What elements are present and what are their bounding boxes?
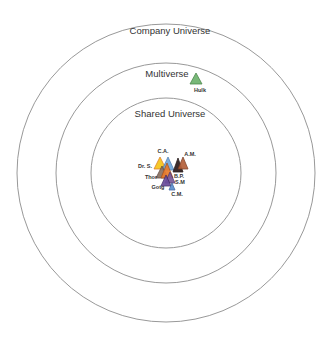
ring-label-multiverse: Multiverse (145, 68, 188, 79)
character-label-c-a: C.A. (158, 148, 169, 154)
character-label-dr-s: Dr. S. (138, 163, 153, 169)
universe-diagram: Company UniverseMultiverseShared Univers… (0, 0, 330, 339)
triangle-marker-icon-hulk (190, 73, 202, 84)
character-label-hulk: Hulk (194, 87, 207, 93)
character-label-gotg: Gotg (152, 184, 165, 190)
ring-label-shared-universe: Shared Universe (135, 108, 206, 119)
character-label-thor: Thor (145, 174, 158, 180)
characters-group: HulkDr. S.C.A.A.M.ThorB.P.S.MGotgC.M. (138, 73, 207, 197)
character-label-a-m: A.M. (184, 151, 196, 157)
character-label-c-m: C.M. (171, 191, 183, 197)
character-label-s-m: S.M (175, 179, 185, 185)
ring-label-company-universe: Company Universe (130, 25, 211, 36)
